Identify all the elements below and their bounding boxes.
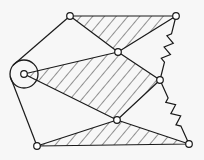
linkage-diagram	[0, 0, 204, 160]
joint-C	[173, 13, 180, 20]
joint-F	[114, 117, 121, 124]
joint-B	[67, 13, 74, 20]
top-triangle	[70, 16, 176, 52]
joint-A	[21, 71, 28, 78]
link-A-B	[13, 16, 70, 65]
spring-C-E	[160, 16, 176, 80]
joint-G	[34, 143, 41, 150]
joint-D	[115, 49, 122, 56]
link-A-G	[10, 76, 37, 146]
bottom-triangle	[37, 120, 189, 146]
spring-E-H	[160, 80, 189, 144]
diagram-canvas	[0, 0, 204, 160]
middle-quad	[24, 52, 160, 120]
joint-H	[186, 141, 193, 148]
joint-E	[157, 77, 164, 84]
